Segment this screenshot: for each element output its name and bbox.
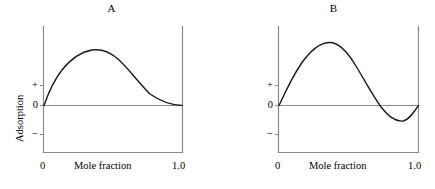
panel-a-xtick-0: 0 [40, 160, 45, 171]
panel-a-ytick-minus: − [24, 128, 38, 139]
panel-b-xlabel: Mole fraction [309, 160, 366, 171]
panel-b-ytick-plus: + [259, 79, 273, 90]
panel-b-ytick-zero: 0 [259, 99, 273, 110]
panel-b-xtick-1: 1.0 [408, 160, 421, 171]
panel-a: A Adsorption + 0 − 0 1.0 Mole fraction [0, 0, 217, 189]
panel-b: B Adsorption + 0 − 0 1.0 Mole fraction [217, 0, 434, 189]
panel-a-adsorption-curve [44, 50, 182, 106]
panel-a-xlabel: Mole fraction [74, 160, 131, 171]
panel-b-xtick-0: 0 [275, 160, 280, 171]
panel-a-ytick-zero: 0 [24, 99, 38, 110]
panel-a-ytick-plus: + [24, 79, 38, 90]
panel-a-xtick-1: 1.0 [172, 160, 185, 171]
panel-b-ytick-minus: − [259, 128, 273, 139]
panel-b-adsorption-curve [279, 42, 419, 121]
figure-container: A Adsorption + 0 − 0 1.0 Mole fraction B [0, 0, 435, 189]
